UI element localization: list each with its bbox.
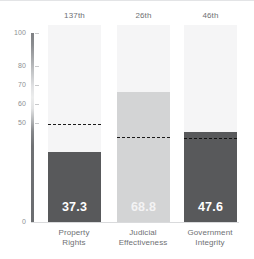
bar-value-property-rights: 37.3 [48, 200, 101, 214]
category-label-line-2: Effectiveness [108, 238, 178, 248]
rank-label-judicial-effectiveness: 26th [117, 11, 170, 20]
category-label-line-1: Government [175, 228, 245, 238]
category-label-line-1: Judicial [108, 228, 178, 238]
category-label-line-2: Integrity [175, 238, 245, 248]
reference-line-property-rights [48, 124, 101, 125]
y-tick-mark-70 [35, 85, 39, 86]
rank-label-government-integrity: 46th [184, 11, 237, 20]
category-label-government-integrity: Government Integrity [175, 228, 245, 247]
reference-line-judicial-effectiveness [117, 137, 170, 138]
category-label-line-1: Property [39, 228, 109, 238]
y-tick-label-0: 0 [0, 217, 26, 227]
rank-label-property-rights: 137th [48, 11, 101, 20]
y-tick-mark-50 [35, 123, 39, 124]
category-label-line-2: Rights [39, 238, 109, 248]
y-tick-mark-100 [35, 33, 39, 34]
category-label-property-rights: Property Rights [39, 228, 109, 247]
bar-value-judicial-effectiveness: 68.8 [117, 200, 170, 214]
bar-value-government-integrity: 47.6 [184, 200, 237, 214]
y-tick-label-50: 50 [0, 118, 26, 128]
category-label-judicial-effectiveness: Judicial Effectiveness [108, 228, 178, 247]
y-axis-spine [31, 33, 34, 222]
y-tick-label-100: 100 [0, 28, 26, 38]
reference-line-government-integrity [184, 138, 237, 139]
y-tick-label-80: 80 [0, 61, 26, 71]
y-tick-mark-80 [35, 66, 39, 67]
y-tick-mark-60 [35, 104, 39, 105]
y-tick-label-60: 60 [0, 99, 26, 109]
chart-root: 137th 26th 46th 100 80 70 60 50 0 37.3 6… [0, 0, 254, 259]
top-divider [0, 0, 254, 1]
x-axis-baseline [31, 222, 239, 223]
y-tick-label-70: 70 [0, 80, 26, 90]
